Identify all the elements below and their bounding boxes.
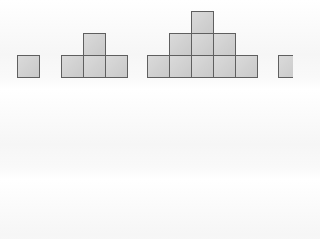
figure-3-square: [169, 33, 192, 56]
figure-3-square: [191, 55, 214, 78]
figure-3-square: [213, 55, 236, 78]
figure-3-square: [191, 11, 214, 34]
figure-2-square: [61, 55, 84, 78]
figure-2-square: [83, 55, 106, 78]
figure-3-square: [147, 55, 170, 78]
figure-2-square: [105, 55, 128, 78]
figure-1-square: [17, 55, 40, 78]
figure-3-square: [191, 33, 214, 56]
figure-3-square: [235, 55, 258, 78]
figure-3-square: [169, 55, 192, 78]
figure-3-square: [213, 33, 236, 56]
figure-4-partial-square: [278, 55, 293, 78]
figure-2-square: [83, 33, 106, 56]
